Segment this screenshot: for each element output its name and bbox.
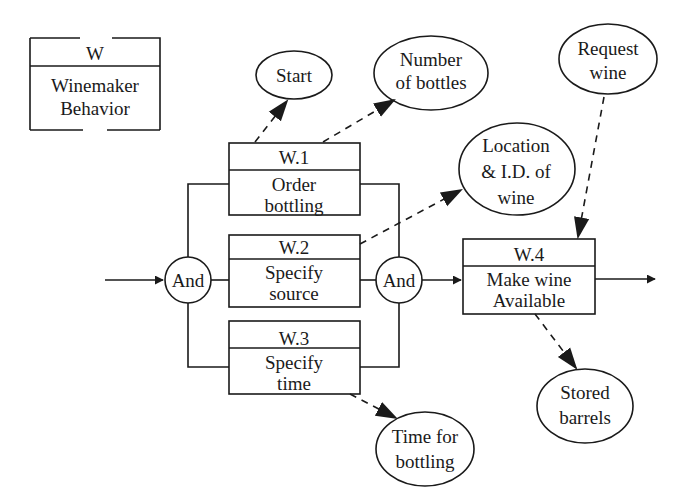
efffbd-diagram: W Winemaker Behavior W.1 Order bottling … bbox=[0, 0, 687, 504]
w2-id: W.2 bbox=[279, 237, 309, 258]
item-stored-line1: Stored bbox=[560, 382, 610, 403]
title-box-id: W bbox=[86, 43, 104, 64]
w4-line1: Make wine bbox=[487, 269, 572, 290]
w1-id: W.1 bbox=[279, 147, 309, 168]
item-stored-barrels bbox=[537, 369, 633, 443]
item-stored-line2: barrels bbox=[559, 407, 611, 428]
w4-id: W.4 bbox=[514, 244, 545, 265]
and-gate-left-label: And bbox=[172, 270, 205, 291]
w2-line1: Specify bbox=[265, 262, 324, 283]
item-location-line1: Location bbox=[482, 135, 550, 156]
item-request-wine bbox=[559, 24, 657, 94]
w3-line1: Specify bbox=[265, 352, 324, 373]
item-time-line1: Time for bbox=[392, 426, 459, 447]
item-number-line2: of bottles bbox=[395, 72, 466, 93]
item-number-line1: Number bbox=[400, 49, 463, 70]
w4-line2: Available bbox=[493, 290, 565, 311]
w1-line2: bottling bbox=[264, 195, 324, 216]
title-box-label-line1: Winemaker bbox=[51, 75, 140, 96]
item-request-line2: wine bbox=[590, 62, 627, 83]
item-time-for-bottling bbox=[376, 412, 474, 486]
w1-line1: Order bbox=[272, 174, 317, 195]
item-location-line3: wine bbox=[498, 187, 535, 208]
item-location-line2: & I.D. of bbox=[481, 161, 551, 182]
item-request-line1: Request bbox=[577, 38, 639, 59]
w2-line2: source bbox=[269, 283, 319, 304]
item-time-line2: bottling bbox=[395, 451, 455, 472]
item-start-label: Start bbox=[276, 65, 313, 86]
w3-line2: time bbox=[277, 373, 311, 394]
title-box-label-line2: Behavior bbox=[60, 98, 130, 119]
w3-id: W.3 bbox=[279, 328, 309, 349]
and-gate-right-label: And bbox=[383, 270, 416, 291]
